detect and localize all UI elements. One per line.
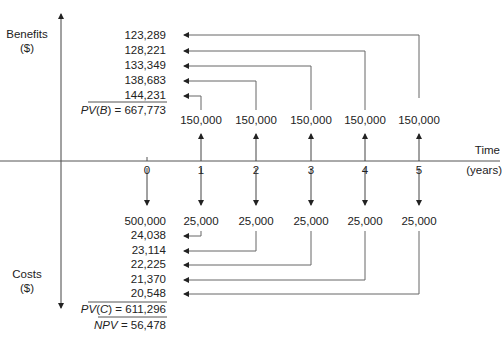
benefit-arrows <box>201 134 419 161</box>
pv-costs-total: PV(C) = 611,296 <box>60 303 166 316</box>
costs-axis-label: Costs <box>2 268 52 281</box>
tick-1: 1 <box>191 164 211 177</box>
cost-year-3: 25,000 <box>286 215 336 228</box>
benefits-axis-unit: ($) <box>2 42 52 55</box>
tick-5: 5 <box>409 164 429 177</box>
benefit-pv-year-5: 123,289 <box>100 29 166 42</box>
benefit-pv-year-3: 133,349 <box>100 59 166 72</box>
npv-total: NPV = 56,478 <box>60 319 166 332</box>
tick-3: 3 <box>301 164 321 177</box>
cost-year-1: 25,000 <box>176 215 226 228</box>
cost-pv-year-2: 23,114 <box>100 244 166 257</box>
benefit-discount-lines <box>184 35 419 110</box>
cost-pv-year-4: 21,370 <box>100 273 166 286</box>
cost-pv-year-1: 24,038 <box>100 229 166 242</box>
cost-arrows <box>147 168 419 205</box>
costs-axis-unit: ($) <box>2 282 52 295</box>
pv-benefits-total: PV(B) = 667,773 <box>60 104 166 117</box>
cost-pv-year-3: 22,225 <box>100 258 166 271</box>
benefit-year-2: 150,000 <box>231 114 281 127</box>
benefit-pv-year-4: 128,221 <box>100 44 166 57</box>
cost-year-2: 25,000 <box>231 215 281 228</box>
cost-year-4: 25,000 <box>340 215 390 228</box>
cost-discount-lines <box>184 231 419 294</box>
cost-year-0: 500,000 <box>100 215 166 228</box>
tick-0: 0 <box>137 164 157 177</box>
time-axis-unit: (years) <box>440 164 502 177</box>
cost-pv-year-5: 20,548 <box>100 287 166 300</box>
benefits-axis-label: Benefits <box>2 28 52 41</box>
benefit-year-5: 150,000 <box>394 114 444 127</box>
cost-year-5: 25,000 <box>394 215 444 228</box>
benefit-pv-year-1: 144,231 <box>100 89 166 102</box>
benefit-pv-year-2: 138,683 <box>100 74 166 87</box>
benefit-year-1: 150,000 <box>176 114 226 127</box>
time-axis-label: Time <box>440 144 500 157</box>
benefit-year-3: 150,000 <box>286 114 336 127</box>
tick-2: 2 <box>246 164 266 177</box>
benefit-year-4: 150,000 <box>340 114 390 127</box>
tick-4: 4 <box>355 164 375 177</box>
